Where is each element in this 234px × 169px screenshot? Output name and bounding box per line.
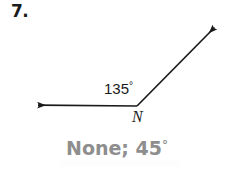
answer-text: None; 45°	[0, 133, 234, 160]
ray-upper-right-diagonal	[137, 28, 215, 107]
page-bottom-artifact	[60, 160, 180, 167]
answer-degree-symbol-icon: °	[162, 138, 168, 152]
worksheet-problem-figure: 7. 135° N None; 45°	[0, 0, 234, 169]
ray-left-horizontal	[38, 105, 137, 106]
vertex-label-n: N	[132, 108, 143, 126]
angle-measure-label: 135°	[104, 77, 133, 98]
angle-measure-value: 135	[104, 80, 129, 97]
degree-symbol-icon: °	[129, 80, 133, 91]
answer-value: None; 45	[66, 137, 162, 159]
